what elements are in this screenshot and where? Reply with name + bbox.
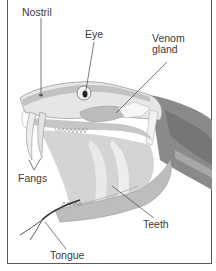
nostril-label: Nostril xyxy=(22,7,52,18)
teeth-label: Teeth xyxy=(143,219,169,230)
fangs-label: Fangs xyxy=(18,173,47,184)
eye-label: Eye xyxy=(85,29,103,40)
fangs-leader-line-right xyxy=(34,158,41,170)
tongue-label: Tongue xyxy=(50,250,84,261)
venom-gland-label-line2: gland xyxy=(152,44,185,55)
fangs-leader-line-left xyxy=(29,160,34,170)
tongue-leader-line xyxy=(45,222,66,249)
venom-gland-label: Venom gland xyxy=(152,33,185,55)
